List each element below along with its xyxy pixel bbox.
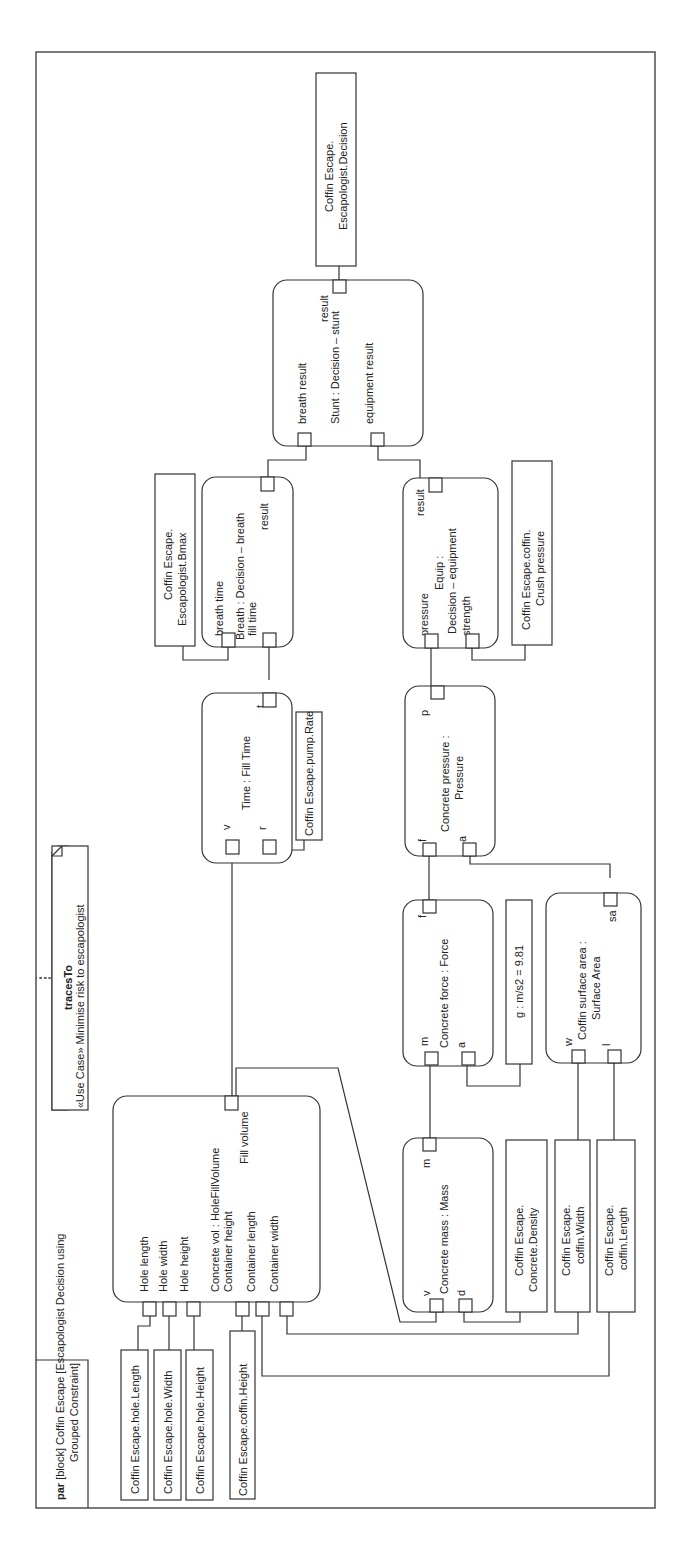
value-gravity[interactable]: g : m/s2 = 9.81 [506,900,532,1064]
value-crush-pressure[interactable]: Coffin Escape.coffin. Crush pressure [512,461,552,645]
port-equip-strength[interactable] [466,634,479,648]
svg-text:coffin.Length: coffin.Length [617,1207,629,1270]
svg-text:Container width: Container width [268,1216,280,1292]
svg-text:Coffin Escape.hole.Width: Coffin Escape.hole.Width [162,1371,174,1494]
constraint-surface-area[interactable]: Coffin surface area : Surface Area w l s… [546,893,641,1063]
svg-text:Coffin Escape.coffin.Height: Coffin Escape.coffin.Height [237,1364,249,1496]
port-time-t[interactable] [263,693,276,707]
svg-text:Coffin Escape.: Coffin Escape. [560,1205,572,1276]
svg-text:Decision – equipment: Decision – equipment [446,528,458,634]
port-force-a[interactable] [462,1052,475,1065]
value-concrete-density[interactable]: Coffin Escape. Concrete.Density [506,1140,547,1312]
port-stunt-breath-result[interactable] [298,433,311,446]
port-time-v[interactable] [226,840,239,854]
constraint-pressure[interactable]: Concrete pressure : p Pressure f a p [405,686,495,856]
svg-text:result: result [318,295,330,322]
port-pressure-p[interactable] [431,686,444,699]
port-pressure-f[interactable] [423,843,436,856]
port-surface-sa[interactable] [604,893,617,906]
svg-text:Container length: Container length [245,1211,257,1292]
svg-text:Coffin Escape.: Coffin Escape. [513,1205,525,1276]
svg-text:Coffin Escape.pump.Rate: Coffin Escape.pump.Rate [303,711,315,836]
value-bmax[interactable]: Coffin Escape. Escapologist.Bmax [155,474,195,646]
svg-text:equipment result: equipment result [363,343,375,424]
svg-text:Hole height: Hole height [178,1236,190,1292]
svg-text:Coffin Escape.: Coffin Escape. [323,141,335,212]
port-hole-height[interactable] [187,1302,200,1316]
svg-text:v: v [220,824,232,830]
port-stunt-equipment-result[interactable] [371,433,384,446]
port-container-width[interactable] [280,1302,293,1316]
port-fill-time[interactable] [263,633,276,647]
value-coffin-length[interactable]: Coffin Escape. coffin.Length [597,1140,635,1312]
port-mass-m[interactable] [423,1138,436,1151]
value-hole-height[interactable]: Coffin Escape.hole.Height [186,1350,213,1500]
constraint-breath[interactable]: breath time Breath : Decision – breath f… [202,477,293,647]
port-mass-v[interactable] [430,1299,443,1312]
port-hole-length[interactable] [143,1302,156,1316]
svg-text:result: result [258,503,270,530]
value-hole-length[interactable]: Coffin Escape.hole.Length [121,1350,148,1500]
svg-text:w: w [562,1038,574,1047]
value-hole-width[interactable]: Coffin Escape.hole.Width [154,1350,181,1500]
constraint-stunt[interactable]: breath result Stunt : Decision – stunt e… [273,280,423,446]
svg-text:breath result: breath result [296,363,308,424]
port-surface-l[interactable] [608,1050,621,1063]
svg-text:Crush pressure: Crush pressure [534,531,546,606]
value-pump-rate[interactable]: Coffin Escape.pump.Rate [296,711,322,840]
port-container-length[interactable] [256,1302,269,1316]
svg-text:strength: strength [460,596,472,636]
svg-text:Time : Fill Time: Time : Fill Time [240,736,252,810]
value-escapologist-decision[interactable]: Coffin Escape. Escapologist.Decision [316,73,356,266]
port-breath-time[interactable] [222,633,235,647]
svg-text:Coffin Escape.coffin.: Coffin Escape.coffin. [520,530,532,631]
constraint-equip[interactable]: pressure Equip : Decision – equipment st… [403,478,498,648]
svg-text:g : m/s2 = 9.81: g : m/s2 = 9.81 [513,945,525,1018]
parametric-diagram: par [block] Coffin Escape [Escapologist … [0,0,692,1552]
port-surface-w[interactable] [572,1050,585,1063]
constraint-force[interactable]: Concrete force : Force m a f [403,900,493,1066]
svg-text:m: m [420,1159,432,1168]
value-coffin-height[interactable]: Coffin Escape.coffin.Height [230,1331,255,1499]
svg-text:breath time: breath time [213,581,225,636]
svg-text:Breath : Decision – breath: Breath : Decision – breath [234,513,246,640]
svg-text:l: l [600,1044,612,1046]
svg-text:Hole length: Hole length [138,1236,150,1292]
port-force-f[interactable] [423,900,436,913]
port-breath-result[interactable] [261,477,274,491]
svg-text:Concrete force : Force: Concrete force : Force [438,939,450,1048]
svg-text:fill time: fill time [246,602,258,636]
port-time-r[interactable] [263,840,276,854]
svg-text:coffin.Width: coffin.Width [574,1207,586,1264]
svg-text:Surface Area: Surface Area [590,956,602,1020]
port-mass-d[interactable] [459,1299,472,1312]
svg-text:pressure: pressure [418,593,430,636]
svg-text:Stunt : Decision – stunt: Stunt : Decision – stunt [329,311,341,424]
port-pressure-a[interactable] [463,843,476,856]
constraint-concrete-vol[interactable]: Hole length Hole width Hole height Concr… [113,1096,320,1302]
value-coffin-width[interactable]: Coffin Escape. coffin.Width [555,1140,590,1312]
port-equip-result[interactable] [429,478,442,492]
svg-text:a: a [456,835,468,842]
svg-text:Concrete vol : HoleFillVolume: Concrete vol : HoleFillVolume [209,1148,221,1292]
svg-text:m: m [418,1037,430,1046]
svg-text:v: v [420,1290,432,1296]
port-fill-volume[interactable] [225,1096,238,1110]
port-force-m[interactable] [425,1052,438,1065]
svg-text:Escapologist.Bmax: Escapologist.Bmax [176,532,188,626]
constraint-time[interactable]: Time : Fill Time v r t [202,693,292,863]
svg-text:Pressure: Pressure [453,756,465,800]
svg-text:Coffin Escape.: Coffin Escape. [162,529,174,600]
port-hole-width[interactable] [163,1302,176,1316]
svg-text:Equip :: Equip : [433,556,445,590]
svg-text:Container height: Container height [222,1211,234,1292]
svg-text:Coffin surface area :: Coffin surface area : [576,941,588,1040]
port-container-height[interactable] [236,1302,249,1316]
svg-text:Coffin Escape.hole.Height: Coffin Escape.hole.Height [194,1367,206,1494]
port-equip-pressure[interactable] [425,634,438,648]
port-stunt-result[interactable] [333,280,346,293]
constraint-mass[interactable]: Concrete mass : Mass v d m [403,1138,493,1312]
svg-text:p: p [418,710,430,716]
svg-text:Grouped Constraint]: Grouped Constraint] [68,1363,80,1462]
svg-text:Coffin Escape.: Coffin Escape. [603,1205,615,1276]
